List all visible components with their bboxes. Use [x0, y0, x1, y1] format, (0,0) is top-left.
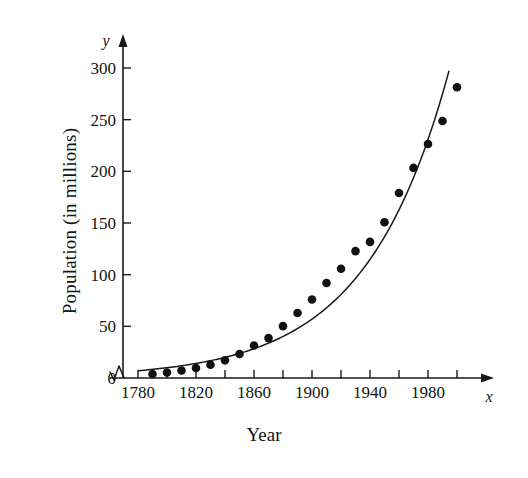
data-point-group — [148, 83, 461, 378]
data-point — [293, 309, 302, 318]
x-tick-label: 1900 — [295, 383, 329, 402]
data-point — [366, 238, 375, 247]
data-point — [235, 350, 244, 359]
data-point — [250, 341, 259, 350]
y-tick-label: 150 — [91, 214, 117, 233]
data-point — [337, 264, 346, 273]
y-axis-title: Population (in millions) — [59, 71, 81, 371]
axes-group — [110, 34, 494, 383]
x-tick-label: 1940 — [353, 383, 387, 402]
exponential-model-curve — [138, 71, 449, 371]
y-tick-label: 100 — [91, 266, 117, 285]
x-axis-title: Year — [0, 424, 528, 446]
y-axis-variable-label: y — [100, 32, 110, 50]
population-chart-figure: Population (in millions) Year 0501001502… — [0, 0, 528, 478]
x-tick-label: 1980 — [411, 383, 445, 402]
y-tick-label: 300 — [91, 59, 117, 78]
data-point — [395, 189, 404, 198]
x-tick-label: 1820 — [179, 383, 213, 402]
data-point — [322, 279, 331, 288]
data-point — [438, 117, 447, 126]
data-point — [453, 83, 462, 92]
y-axis-arrowhead — [119, 34, 128, 47]
y-tick-label: 0 — [108, 369, 117, 388]
data-point — [380, 218, 389, 227]
x-axis-variable-label: x — [484, 388, 492, 405]
data-point — [163, 368, 172, 377]
data-point — [351, 247, 360, 256]
x-tick-label: 1780 — [121, 383, 155, 402]
x-tick-group: 178018201860190019401980 — [121, 370, 457, 402]
data-point — [264, 334, 273, 343]
x-axis-arrowhead — [481, 374, 494, 383]
data-point — [308, 295, 317, 304]
y-tick-label: 200 — [91, 162, 117, 181]
y-tick-group: 050100150200250300 — [91, 59, 132, 388]
data-point — [206, 360, 215, 369]
data-point — [221, 356, 230, 365]
y-tick-label: 50 — [99, 317, 116, 336]
data-point — [279, 322, 288, 331]
x-tick-label: 1860 — [237, 383, 271, 402]
data-point — [177, 366, 186, 375]
data-point — [409, 164, 418, 173]
y-tick-label: 250 — [91, 111, 117, 130]
data-point — [148, 370, 157, 379]
data-point — [192, 364, 201, 373]
data-point — [424, 140, 433, 149]
